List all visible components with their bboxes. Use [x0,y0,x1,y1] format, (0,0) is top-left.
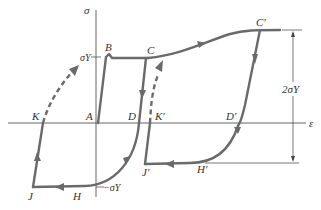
epsilon-axis-label: ε [309,117,314,129]
arrow-left-icon [165,160,174,168]
point-Jprime-label: J′ [142,166,150,178]
dim-arrow-up-icon [291,31,295,37]
point-Kprime-label: K′ [154,110,165,122]
arrow-down-icon [139,90,146,99]
arrow-upright-icon [69,65,79,76]
point-D-label: D [127,110,136,122]
hysteresis-diagram: σ ε σY −σY 2σY A B C C′ D D′ H H′ J J′ K… [0,0,321,210]
point-A-label: A [85,110,93,122]
arrow-upright-icon [155,60,163,72]
span-label: 2σY [282,83,301,95]
curve-Jprime-Kprime [145,123,150,164]
curve-D-H-J [33,123,139,187]
point-K-label: K [31,110,40,122]
sigma-axis-label: σ [84,4,90,16]
point-Hprime-label: H′ [196,163,208,175]
point-J-label: J [28,190,34,202]
point-B-label: B [105,41,112,53]
curve-Dprime-Hprime-Jprime [145,126,238,164]
dashed-reload-K [43,72,72,123]
point-Cprime-label: C′ [256,16,266,28]
dim-arrow-down-icon [291,156,295,162]
yield-negative-label: −σY [103,182,122,193]
arrow-left-icon [55,183,64,191]
point-Dprime-label: D′ [225,110,237,122]
point-H-label: H [72,190,82,202]
point-C-label: C [147,44,155,56]
arrow-up-icon [34,152,41,161]
curve-Cprime-Dprime [238,30,260,126]
yield-positive-label: σY [80,52,92,63]
